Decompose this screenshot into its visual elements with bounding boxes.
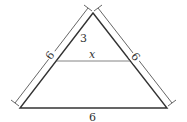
parallel-segment-label: x: [89, 48, 96, 61]
base-label: 6: [89, 111, 96, 122]
triangle-diagram: 6 6 3 x 6: [0, 0, 187, 122]
top-segment-label: 3: [80, 32, 87, 45]
